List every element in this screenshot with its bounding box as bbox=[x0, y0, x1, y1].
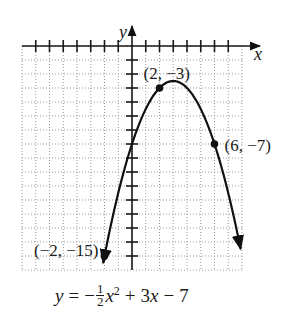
parabola-graph: (2, −3)(6, −7)(−2, −15) x y bbox=[0, 0, 287, 329]
data-point bbox=[101, 252, 109, 260]
point-label: (2, −3) bbox=[144, 64, 190, 83]
point-label: (6, −7) bbox=[225, 136, 271, 155]
eq-var2: x bbox=[150, 285, 158, 307]
eq-equals: = bbox=[68, 285, 79, 307]
equation-caption: y = − 1 2 x2 + 3x − 7 bbox=[55, 283, 189, 308]
eq-var: x bbox=[105, 285, 113, 307]
eq-frac-den: 2 bbox=[97, 296, 104, 308]
x-axis-label: x bbox=[253, 44, 262, 64]
labeled-points: (2, −3)(6, −7)(−2, −15) bbox=[34, 64, 271, 260]
y-axis-label: y bbox=[117, 22, 127, 42]
eq-coef: 3 bbox=[141, 285, 151, 307]
eq-plus: + bbox=[125, 285, 136, 307]
point-label: (−2, −15) bbox=[34, 241, 99, 260]
eq-fraction: 1 2 bbox=[96, 283, 105, 308]
data-point bbox=[156, 84, 164, 92]
eq-const: 7 bbox=[179, 285, 189, 307]
eq-lhs: y bbox=[55, 285, 63, 307]
data-point bbox=[211, 140, 219, 148]
eq-minus: − bbox=[84, 285, 95, 307]
eq-exp: 2 bbox=[114, 284, 120, 299]
eq-minus2: − bbox=[163, 285, 174, 307]
